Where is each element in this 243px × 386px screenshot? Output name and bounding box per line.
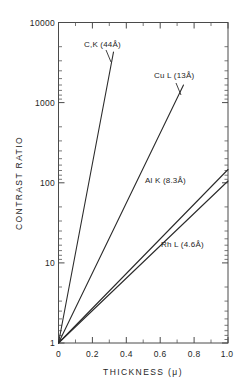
x-tick-label-0: 0 xyxy=(56,349,61,359)
y-tick-label-10: 10 xyxy=(45,258,55,268)
plot-background xyxy=(0,0,243,386)
chart-figure: 10000 1000 100 10 1 0 0.2 0.4 0.6 0.8 1.… xyxy=(0,0,243,386)
y-tick-label-10000: 10000 xyxy=(30,18,55,28)
x-tick-label-0-6: 0.6 xyxy=(154,349,167,359)
series-label-rhl: Rh L (4.6Å) xyxy=(161,240,204,249)
y-tick-label-1: 1 xyxy=(50,338,55,348)
x-tick-label-0-4: 0.4 xyxy=(120,349,133,359)
series-label-ck: C,K (44Å) xyxy=(84,40,121,49)
x-tick-label-1-0: 1.0 xyxy=(221,349,234,359)
y-tick-label-1000: 1000 xyxy=(35,98,55,108)
series-label-alk: Al K (8.3Å) xyxy=(145,176,186,185)
y-tick-label-100: 100 xyxy=(40,178,55,188)
x-tick-label-0-2: 0.2 xyxy=(86,349,99,359)
series-label-cul: Cu L (13Å) xyxy=(154,71,195,80)
y-axis-title: CONTRAST RATIO xyxy=(14,136,24,230)
x-axis-title: THICKNESS (μ) xyxy=(103,367,183,377)
contrast-ratio-log-plot: 10000 1000 100 10 1 0 0.2 0.4 0.6 0.8 1.… xyxy=(0,0,243,386)
x-tick-label-0-8: 0.8 xyxy=(188,349,201,359)
